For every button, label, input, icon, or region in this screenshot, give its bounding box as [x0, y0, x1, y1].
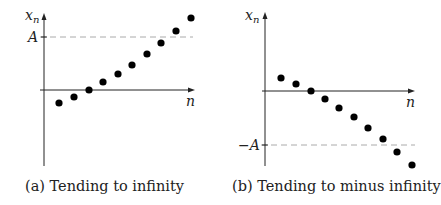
data-point — [408, 161, 415, 168]
data-point — [187, 14, 194, 21]
data-point — [55, 99, 62, 106]
data-points-b — [277, 74, 415, 168]
x-axis-label: n — [186, 93, 195, 109]
data-point — [157, 39, 164, 46]
level-label-a: A — [26, 29, 38, 45]
data-point — [85, 86, 92, 93]
x-axis-arrow-icon — [188, 88, 195, 93]
data-point — [364, 124, 371, 131]
y-axis-label: xn — [245, 7, 259, 25]
data-point — [321, 95, 328, 102]
data-point — [172, 27, 179, 34]
data-points-a — [55, 14, 194, 106]
caption-a: (a) Tending to infinity — [25, 178, 184, 194]
panel-tending-to-infinity: xn A n (a) Tending to infinity — [0, 0, 220, 205]
plot-a: xn A n — [0, 0, 220, 175]
panel-tending-to-minus-infinity: xn −A n (b) Tending to minus infinity — [220, 0, 441, 205]
data-point — [143, 50, 150, 57]
y-axis-label: xn — [25, 7, 39, 25]
data-point — [350, 113, 357, 120]
level-label-minus-a: −A — [238, 137, 260, 153]
data-point — [393, 148, 400, 155]
data-point — [70, 93, 77, 100]
data-point — [292, 80, 299, 87]
y-axis-arrow-icon — [42, 13, 47, 20]
data-point — [277, 74, 284, 81]
data-point — [99, 78, 106, 85]
data-point — [379, 135, 386, 142]
plot-b: xn −A n — [220, 0, 441, 175]
data-point — [114, 70, 121, 77]
y-axis-arrow-icon — [263, 12, 268, 19]
caption-b: (b) Tending to minus infinity — [232, 178, 441, 194]
x-axis-arrow-icon — [408, 89, 415, 94]
x-axis-label: n — [406, 94, 415, 110]
data-point — [307, 87, 314, 94]
data-point — [335, 104, 342, 111]
data-point — [128, 61, 135, 68]
